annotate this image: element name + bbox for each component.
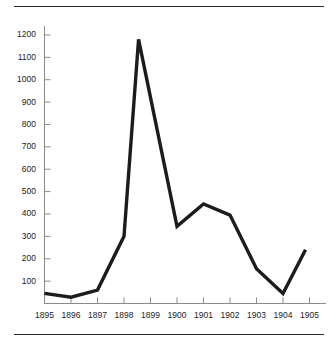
x-axis-tick-label: 1896 [56, 311, 86, 320]
y-axis-tick-label: 1000 [6, 75, 36, 84]
figure: 120011001000900800700600500400300200100 … [0, 0, 336, 343]
x-axis-ticks [45, 298, 310, 304]
top-horizontal-rule [14, 6, 324, 7]
x-axis-tick-label: 1898 [109, 311, 139, 320]
y-axis-tick-label: 100 [6, 277, 36, 286]
y-axis-tick-label: 300 [6, 232, 36, 241]
y-axis-tick-label: 400 [6, 209, 36, 218]
x-axis-tick-label: 1905 [295, 311, 325, 320]
x-axis-tick-label: 1901 [189, 311, 219, 320]
x-axis-tick-label: 1895 [30, 311, 60, 320]
y-axis-tick-label: 600 [6, 165, 36, 174]
x-axis-tick-label: 1902 [215, 311, 245, 320]
y-axis-tick-label: 1100 [6, 53, 36, 62]
x-axis-tick-label: 1899 [136, 311, 166, 320]
y-axis-tick-label: 200 [6, 254, 36, 263]
y-axis-tick-label: 800 [6, 120, 36, 129]
x-axis-tick-label: 1903 [242, 311, 272, 320]
line-chart: 120011001000900800700600500400300200100 … [0, 14, 336, 326]
x-axis-tick-label: 1904 [268, 311, 298, 320]
chart-canvas [0, 14, 336, 326]
y-axis-tick-label: 1200 [6, 30, 36, 39]
y-axis-tick-label: 900 [6, 98, 36, 107]
y-axis-tick-label: 500 [6, 187, 36, 196]
y-axis-tick-label: 700 [6, 142, 36, 151]
y-axis-ticks [45, 35, 51, 281]
x-axis-tick-label: 1900 [162, 311, 192, 320]
data-series-line [45, 39, 306, 297]
axes [45, 26, 327, 304]
x-axis-tick-label: 1897 [83, 311, 113, 320]
bottom-horizontal-rule [14, 334, 324, 335]
